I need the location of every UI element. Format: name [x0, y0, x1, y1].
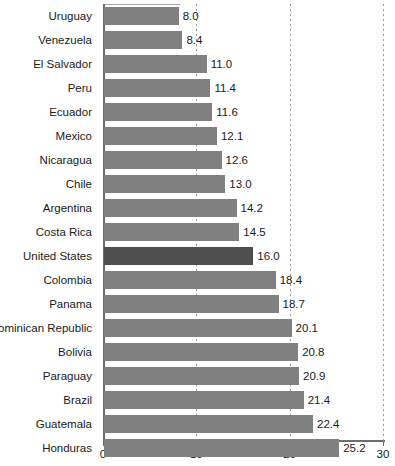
bar-row: Venezuela8.4 [0, 28, 395, 52]
bar [104, 103, 212, 121]
category-label: Dominican Republic [0, 320, 92, 336]
bar-value-label: 20.9 [303, 369, 325, 383]
bar-row: Bolivia20.8 [0, 340, 395, 364]
bar-value-label: 11.6 [216, 105, 238, 119]
bar [104, 247, 253, 265]
bar-row: Colombia18.4 [0, 268, 395, 292]
bar-row: El Salvador11.0 [0, 52, 395, 76]
bar-value-label: 16.0 [257, 249, 279, 263]
bar [104, 151, 222, 169]
category-label: Chile [66, 176, 92, 192]
category-label: Ecuador [49, 104, 92, 120]
bar-row: Costa Rica14.5 [0, 220, 395, 244]
bar-row: Paraguay20.9 [0, 364, 395, 388]
category-label: Venezuela [38, 32, 92, 48]
category-label: Colombia [43, 272, 92, 288]
bar-value-label: 12.6 [226, 153, 248, 167]
bar-value-label: 11.4 [214, 81, 236, 95]
bar-value-label: 20.8 [302, 345, 324, 359]
bar-row: Dominican Republic20.1 [0, 316, 395, 340]
bar-value-label: 14.2 [241, 201, 263, 215]
bar-row: Chile13.0 [0, 172, 395, 196]
category-label: El Salvador [33, 56, 92, 72]
bar-row: Ecuador11.6 [0, 100, 395, 124]
bar [104, 415, 313, 433]
bar-row: Mexico12.1 [0, 124, 395, 148]
bar-value-label: 11.0 [211, 57, 233, 71]
bar [104, 439, 339, 457]
category-label: Panama [49, 296, 92, 312]
bar [104, 7, 179, 25]
bar [104, 127, 217, 145]
bar [104, 55, 207, 73]
bar-value-label: 18.7 [283, 297, 305, 311]
bar [104, 271, 276, 289]
category-label: United States [23, 248, 92, 264]
bar-row: Argentina14.2 [0, 196, 395, 220]
category-label: Honduras [42, 440, 92, 456]
bar-row: Honduras25.2 [0, 436, 395, 460]
category-label: Bolivia [58, 344, 92, 360]
bar-row: Brazil21.4 [0, 388, 395, 412]
bar [104, 199, 237, 217]
bar [104, 79, 210, 97]
bar-row: Guatemala22.4 [0, 412, 395, 436]
bar [104, 31, 182, 49]
category-label: Argentina [43, 200, 92, 216]
bar-value-label: 20.1 [296, 321, 318, 335]
bar-value-label: 21.4 [308, 393, 330, 407]
category-label: Uruguay [49, 8, 92, 24]
bar [104, 295, 279, 313]
bar-value-label: 8.0 [183, 9, 199, 23]
bar-row: Panama18.7 [0, 292, 395, 316]
bar-value-label: 22.4 [317, 417, 339, 431]
category-label: Guatemala [36, 416, 92, 432]
category-label: Costa Rica [36, 224, 92, 240]
bar-value-label: 18.4 [280, 273, 302, 287]
bar [104, 343, 298, 361]
category-label: Mexico [56, 128, 92, 144]
bar-value-label: 12.1 [221, 129, 243, 143]
bar-value-label: 13.0 [229, 177, 251, 191]
category-label: Paraguay [43, 368, 92, 384]
bar-row: Uruguay8.0 [0, 4, 395, 28]
bar-chart: 0102030 Uruguay8.0Venezuela8.4El Salvado… [0, 0, 395, 466]
bar-row: Peru11.4 [0, 76, 395, 100]
bar-row: Nicaragua12.6 [0, 148, 395, 172]
bar [104, 391, 304, 409]
bar [104, 175, 225, 193]
bar-value-label: 14.5 [243, 225, 265, 239]
bar-row: United States16.0 [0, 244, 395, 268]
bar-value-label: 25.2 [343, 441, 365, 455]
category-label: Nicaragua [40, 152, 92, 168]
bar [104, 367, 299, 385]
bar-value-label: 8.4 [186, 33, 202, 47]
category-label: Brazil [63, 392, 92, 408]
bar [104, 319, 292, 337]
category-label: Peru [68, 80, 92, 96]
bar [104, 223, 239, 241]
